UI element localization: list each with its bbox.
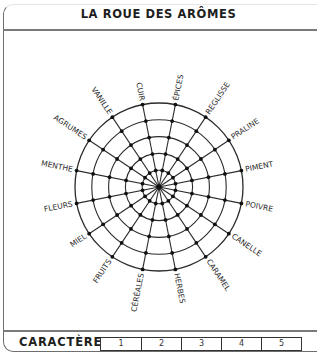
aroma-intensity-point[interactable]: [138, 213, 142, 217]
aroma-intensity-point[interactable]: [174, 182, 178, 186]
aroma-intensity-point[interactable]: [148, 171, 152, 175]
aroma-intensity-point[interactable]: [227, 138, 231, 142]
aroma-intensity-point[interactable]: [207, 175, 211, 179]
rating-option-3[interactable]: 3: [181, 338, 221, 350]
aroma-intensity-point[interactable]: [129, 166, 133, 170]
aroma-intensity-point[interactable]: [213, 148, 217, 152]
aroma-intensity-point[interactable]: [151, 152, 155, 156]
aroma-intensity-point[interactable]: [160, 202, 164, 206]
aroma-label: ÉPICES: [170, 73, 185, 101]
aroma-intensity-point[interactable]: [194, 129, 198, 133]
aroma-intensity-point[interactable]: [120, 129, 124, 133]
aroma-intensity-point[interactable]: [101, 148, 105, 152]
aroma-label: CANELLE: [230, 232, 264, 259]
aroma-intensity-point[interactable]: [185, 204, 189, 208]
aroma-intensity-point[interactable]: [185, 166, 189, 170]
aroma-intensity-point[interactable]: [166, 199, 170, 203]
aroma-intensity-point[interactable]: [75, 201, 79, 205]
aroma-intensity-point[interactable]: [129, 204, 133, 208]
aroma-intensity-point[interactable]: [223, 198, 227, 202]
aroma-intensity-point[interactable]: [108, 195, 112, 199]
aroma-intensity-point[interactable]: [207, 195, 211, 199]
aroma-intensity-point[interactable]: [151, 218, 155, 222]
aroma-intensity-point[interactable]: [120, 241, 124, 245]
aroma-intensity-point[interactable]: [190, 192, 194, 196]
aroma-intensity-point[interactable]: [115, 157, 119, 161]
aroma-intensity-point[interactable]: [147, 235, 151, 239]
aroma-intensity-point[interactable]: [167, 235, 171, 239]
aroma-intensity-point[interactable]: [101, 222, 105, 226]
aroma-intensity-point[interactable]: [199, 213, 203, 217]
aroma-intensity-point[interactable]: [164, 152, 168, 156]
aroma-intensity-point[interactable]: [170, 119, 174, 123]
aroma-intensity-point[interactable]: [141, 188, 145, 192]
aroma-intensity-point[interactable]: [143, 194, 147, 198]
aroma-intensity-point[interactable]: [176, 213, 180, 217]
rating-option-5[interactable]: 5: [261, 338, 301, 350]
aroma-intensity-point[interactable]: [87, 138, 91, 142]
aroma-intensity-point[interactable]: [223, 172, 227, 176]
aroma-intensity-point[interactable]: [213, 222, 217, 226]
aroma-intensity-point[interactable]: [91, 198, 95, 202]
aroma-intensity-point[interactable]: [239, 169, 243, 173]
aroma-intensity-point[interactable]: [173, 267, 177, 271]
aroma-intensity-point[interactable]: [204, 115, 208, 119]
aroma-intensity-point[interactable]: [199, 157, 203, 161]
aroma-intensity-point[interactable]: [173, 103, 177, 107]
aroma-intensity-point[interactable]: [144, 251, 148, 255]
aroma-intensity-point[interactable]: [171, 176, 175, 180]
aroma-intensity-point[interactable]: [171, 194, 175, 198]
aroma-intensity-point[interactable]: [144, 119, 148, 123]
aroma-label: MENTHE: [40, 159, 74, 174]
rating-option-1[interactable]: 1: [101, 338, 141, 350]
aroma-intensity-point[interactable]: [194, 241, 198, 245]
aroma-intensity-point[interactable]: [160, 169, 164, 173]
aroma-intensity-point[interactable]: [143, 176, 147, 180]
aroma-intensity-point[interactable]: [129, 143, 133, 147]
aroma-intensity-point[interactable]: [108, 175, 112, 179]
aroma-intensity-point[interactable]: [154, 169, 158, 173]
aroma-intensity-point[interactable]: [174, 188, 178, 192]
aroma-label: PRALINE: [229, 116, 261, 141]
aroma-label: CARAMEL: [204, 257, 232, 293]
aroma-intensity-point[interactable]: [148, 199, 152, 203]
rating-option-2[interactable]: 2: [141, 338, 181, 350]
aroma-intensity-point[interactable]: [204, 255, 208, 259]
aroma-intensity-point[interactable]: [170, 251, 174, 255]
aroma-label: REGLISSE: [204, 80, 232, 116]
aroma-intensity-point[interactable]: [141, 267, 145, 271]
aroma-intensity-point[interactable]: [164, 218, 168, 222]
aroma-intensity-point[interactable]: [154, 202, 158, 206]
aroma-label: CÉRÉALES: [128, 272, 145, 313]
aroma-label: CUIR: [134, 82, 147, 102]
aroma-intensity-point[interactable]: [87, 232, 91, 236]
aroma-label: VANILLE: [89, 85, 114, 116]
aroma-intensity-point[interactable]: [141, 182, 145, 186]
aroma-intensity-point[interactable]: [147, 136, 151, 140]
aroma-intensity-point[interactable]: [185, 227, 189, 231]
aroma-intensity-point[interactable]: [75, 169, 79, 173]
aroma-intensity-point[interactable]: [129, 227, 133, 231]
aroma-intensity-point[interactable]: [227, 232, 231, 236]
aroma-intensity-point[interactable]: [176, 157, 180, 161]
aroma-intensity-point[interactable]: [124, 192, 128, 196]
aroma-intensity-point[interactable]: [91, 172, 95, 176]
aroma-intensity-point[interactable]: [190, 179, 194, 183]
aroma-wheel: ÉPICESREGLISSEPRALINEPIMENTPOIVRECANELLE…: [0, 30, 317, 330]
footer-divider: [3, 330, 317, 332]
aroma-intensity-point[interactable]: [110, 255, 114, 259]
aroma-label: FLEURS: [43, 199, 73, 214]
aroma-intensity-point[interactable]: [239, 201, 243, 205]
aroma-intensity-point[interactable]: [185, 143, 189, 147]
character-rating-scale: 1 2 3 4 5: [100, 337, 302, 351]
aroma-intensity-point[interactable]: [167, 136, 171, 140]
aroma-intensity-point[interactable]: [166, 171, 170, 175]
aroma-intensity-point[interactable]: [124, 179, 128, 183]
aroma-intensity-point[interactable]: [115, 213, 119, 217]
aroma-label: POIVRE: [245, 199, 274, 213]
aroma-intensity-point[interactable]: [141, 103, 145, 107]
aroma-intensity-point[interactable]: [110, 115, 114, 119]
aroma-label: MIEL: [68, 231, 88, 249]
aroma-intensity-point[interactable]: [138, 157, 142, 161]
rating-option-4[interactable]: 4: [221, 338, 261, 350]
